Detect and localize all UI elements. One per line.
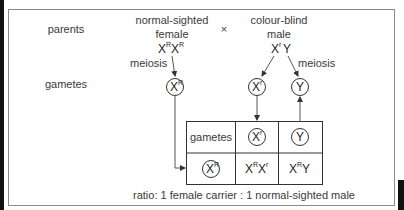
female-meiosis-label: meiosis [130, 57, 168, 69]
ratio-text: ratio: 1 female carrier : 1 normal-sight… [133, 189, 355, 201]
female-gamete-xr: X R [167, 79, 184, 96]
punnett-column-gamete-y: Y [292, 129, 309, 146]
cross-symbol: × [221, 23, 227, 35]
svg-text:X: X [171, 42, 179, 56]
svg-text:X: X [258, 162, 266, 176]
parents-label: parents [48, 23, 85, 35]
svg-text:Y: Y [296, 130, 304, 144]
punnett-row-gamete-xr: X R [203, 161, 220, 178]
female-description-line2: female [155, 28, 188, 40]
svg-text:X: X [289, 162, 297, 176]
male-meiosis-label: meiosis [298, 57, 336, 69]
svg-text:R: R [179, 41, 184, 48]
inheritance-diagram: parents gametes normal-sighted female X … [0, 0, 404, 210]
female-description-line1: normal-sighted [136, 14, 209, 26]
right-edge-block [398, 180, 404, 210]
svg-text:R: R [178, 79, 183, 86]
svg-text:Y: Y [283, 42, 291, 56]
male-gamete-y: Y [292, 79, 309, 96]
svg-text:X: X [158, 42, 166, 56]
diagram-frame [9, 10, 395, 206]
punnett-column-gamete-xr: X r [249, 129, 266, 146]
svg-text:X: X [170, 80, 178, 94]
gametes-label: gametes [45, 78, 88, 90]
svg-text:R: R [214, 161, 219, 168]
svg-text:Y: Y [302, 162, 310, 176]
male-description-line2: male [267, 28, 291, 40]
punnett-header-label: gametes [190, 131, 233, 143]
svg-text:X: X [252, 80, 260, 94]
left-edge-bar [0, 0, 4, 210]
svg-text:X: X [245, 162, 253, 176]
svg-text:X: X [271, 42, 279, 56]
male-gamete-xr: X r [249, 79, 266, 96]
svg-text:X: X [252, 130, 260, 144]
svg-text:Y: Y [296, 80, 304, 94]
svg-text:X: X [206, 162, 214, 176]
male-description-line1: colour-blind [251, 14, 308, 26]
